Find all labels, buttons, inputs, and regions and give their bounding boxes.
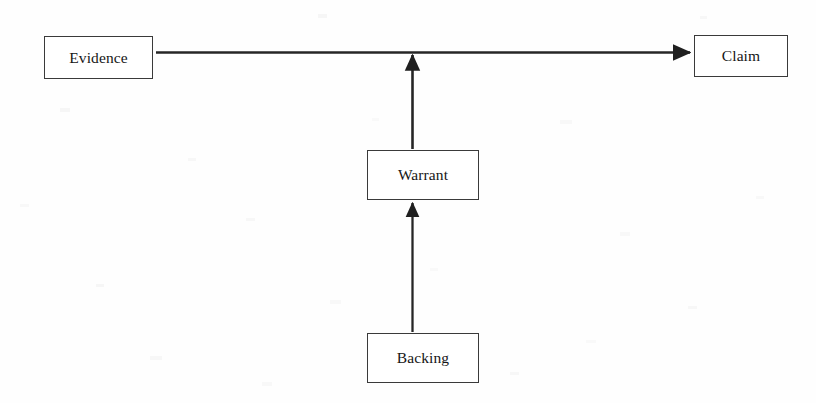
node-warrant-label: Warrant [398,167,448,183]
node-evidence-label: Evidence [69,50,127,66]
node-claim[interactable]: Claim [694,35,788,77]
node-claim-label: Claim [722,48,760,64]
node-warrant[interactable]: Warrant [367,150,479,200]
diagram-canvas: Evidence Claim Warrant Backing [0,0,816,403]
node-backing-label: Backing [397,350,449,366]
node-backing[interactable]: Backing [367,333,479,383]
node-evidence[interactable]: Evidence [44,36,153,79]
